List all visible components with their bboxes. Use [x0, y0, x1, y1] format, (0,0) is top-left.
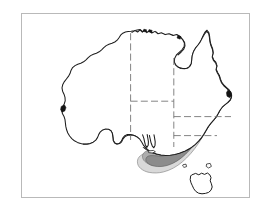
cobourg-headland: [148, 30, 152, 33]
arnhem-headland: [143, 29, 146, 32]
king-island: [183, 164, 187, 167]
tasmania-outline: [190, 173, 212, 194]
australia-distribution-map: [22, 14, 249, 197]
map-frame: [21, 13, 250, 198]
figure-root: Distribution map of Australia: [0, 0, 270, 211]
figure-title: Distribution map of Australia: [0, 21, 1, 22]
kangaroo-island: [148, 150, 155, 153]
flinders-island: [206, 163, 211, 168]
